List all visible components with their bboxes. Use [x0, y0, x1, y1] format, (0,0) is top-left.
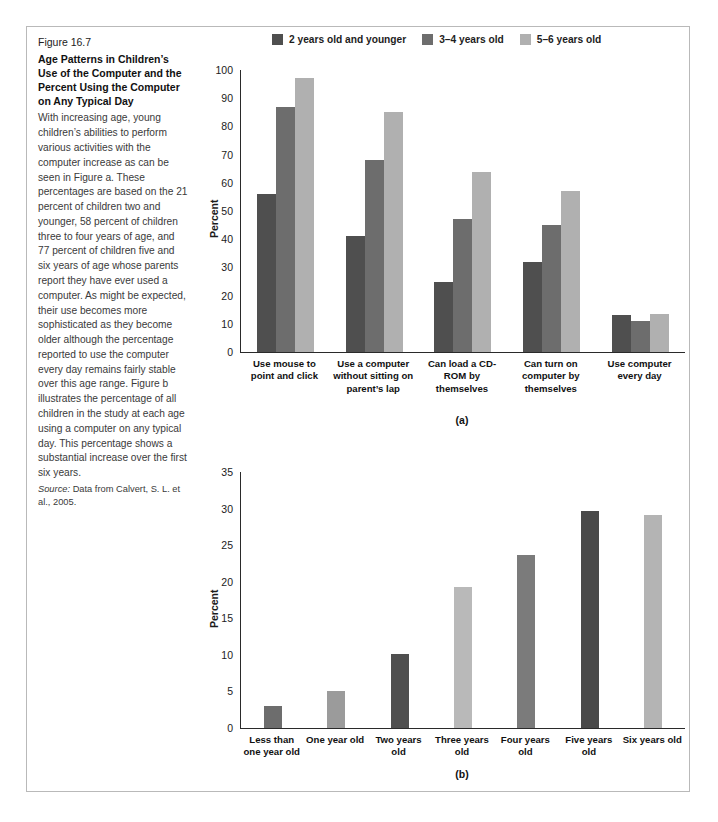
- y-tick-label: 20: [221, 576, 233, 588]
- bar-group: [241, 472, 304, 728]
- chart-panel-a: Percent 0102030405060708090100 Use mouse…: [196, 66, 692, 366]
- legend-swatch-icon: [520, 34, 531, 45]
- x-axis-label: Use a computer without sitting on parent…: [329, 358, 418, 395]
- figure-page: Figure 16.7 Age Patterns in Children’s U…: [0, 0, 718, 822]
- bar: [542, 225, 561, 352]
- x-axis-label: Six years old: [621, 734, 684, 759]
- bar: [276, 107, 295, 352]
- x-axis-label: Use mouse to point and click: [240, 358, 329, 395]
- bar: [650, 314, 669, 352]
- y-tick-label: 30: [221, 503, 233, 515]
- bar: [517, 555, 535, 728]
- bar: [434, 282, 453, 353]
- y-tick-label: 100: [215, 64, 233, 76]
- y-tick-label: 5: [227, 685, 233, 697]
- chart-b-panel-id: (b): [240, 768, 684, 780]
- figure-source: Source: Data from Calvert, S. L. et al.,…: [38, 483, 188, 509]
- x-axis-label: Use computer every day: [595, 358, 684, 395]
- bar: [391, 654, 409, 728]
- figure-body: With increasing age, young children’s ab…: [38, 111, 188, 481]
- x-axis-label: Two years old: [367, 734, 430, 759]
- figure-caption: Figure 16.7 Age Patterns in Children’s U…: [38, 36, 188, 509]
- chart-b-y-ticks: 05101520253035: [196, 472, 236, 728]
- y-tick-label: 30: [221, 261, 233, 273]
- y-tick-label: 0: [227, 346, 233, 358]
- y-tick-label: 40: [221, 233, 233, 245]
- bar-group: [507, 70, 596, 352]
- chart-legend: 2 years old and younger 3–4 years old 5–…: [272, 34, 601, 45]
- chart-a-panel-id: (a): [240, 414, 684, 426]
- bar: [346, 236, 365, 352]
- bar: [581, 511, 599, 728]
- bar: [612, 315, 631, 352]
- y-tick-label: 90: [221, 92, 233, 104]
- bar-group: [304, 472, 367, 728]
- legend-label: 2 years old and younger: [289, 34, 406, 45]
- bar-group: [368, 472, 431, 728]
- bar-group: [622, 472, 685, 728]
- y-tick-label: 60: [221, 177, 233, 189]
- chart-b-plot-area: [240, 472, 685, 729]
- x-axis-label: Can load a CD-ROM by themselves: [418, 358, 507, 395]
- bar: [257, 194, 276, 352]
- figure-title: Age Patterns in Children’s Use of the Co…: [38, 52, 188, 108]
- source-label: Source:: [38, 484, 70, 494]
- bar-group: [596, 70, 685, 352]
- bar-group: [495, 472, 558, 728]
- bar: [365, 160, 384, 352]
- chart-a-plot-area: [240, 70, 685, 353]
- x-axis-label: One year old: [303, 734, 366, 759]
- legend-swatch-icon: [422, 34, 433, 45]
- legend-item-2: 5–6 years old: [520, 34, 602, 45]
- bar-group: [431, 472, 494, 728]
- x-axis-label: Less than one year old: [240, 734, 303, 759]
- x-axis-label: Can turn on computer by themselves: [506, 358, 595, 395]
- x-axis-label: Three years old: [430, 734, 493, 759]
- y-tick-label: 10: [221, 318, 233, 330]
- chart-a-x-labels: Use mouse to point and clickUse a comput…: [240, 358, 684, 395]
- x-axis-label: Five years old: [557, 734, 620, 759]
- legend-label: 5–6 years old: [537, 34, 602, 45]
- bar: [264, 706, 282, 728]
- legend-item-0: 2 years old and younger: [272, 34, 406, 45]
- legend-item-1: 3–4 years old: [422, 34, 504, 45]
- bar-group: [419, 70, 508, 352]
- y-tick-label: 10: [221, 649, 233, 661]
- legend-label: 3–4 years old: [439, 34, 504, 45]
- bar-group: [558, 472, 621, 728]
- bar: [454, 587, 472, 728]
- y-tick-label: 50: [221, 205, 233, 217]
- chart-a-bar-groups: [241, 70, 685, 352]
- figure-number: Figure 16.7: [38, 36, 188, 49]
- y-tick-label: 25: [221, 539, 233, 551]
- bar: [327, 691, 345, 728]
- chart-b-x-labels: Less than one year oldOne year oldTwo ye…: [240, 734, 684, 759]
- bar-group: [241, 70, 330, 352]
- y-tick-label: 20: [221, 290, 233, 302]
- chart-panel-b: Percent 05101520253035 Less than one yea…: [196, 468, 692, 768]
- bar: [561, 191, 580, 352]
- bar: [631, 321, 650, 352]
- chart-a-y-ticks: 0102030405060708090100: [196, 70, 236, 352]
- bar-group: [330, 70, 419, 352]
- y-tick-label: 35: [221, 466, 233, 478]
- bar: [644, 515, 662, 728]
- bar: [384, 112, 403, 352]
- bar: [472, 172, 491, 352]
- chart-b-bar-groups: [241, 472, 685, 728]
- bar: [523, 262, 542, 352]
- bar: [295, 78, 314, 352]
- y-tick-label: 0: [227, 722, 233, 734]
- bar: [453, 219, 472, 352]
- legend-swatch-icon: [272, 34, 283, 45]
- y-tick-label: 70: [221, 149, 233, 161]
- x-axis-label: Four years old: [494, 734, 557, 759]
- y-tick-label: 15: [221, 612, 233, 624]
- y-tick-label: 80: [221, 120, 233, 132]
